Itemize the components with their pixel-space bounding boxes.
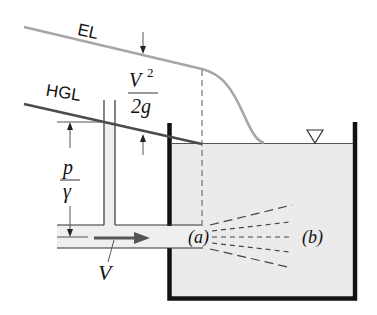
velocity-head-denominator: 2g (131, 95, 151, 118)
pipe-to-tank-diagram: EL HGL V 2 2g p γ V (a) (b) (0, 0, 377, 315)
arrow-down-icon (140, 46, 146, 54)
arrow-up-icon (67, 122, 73, 130)
tank-fluid (172, 144, 352, 296)
point-b-label: (b) (302, 227, 323, 248)
standpipe-fluid (104, 122, 115, 226)
point-a-label: (a) (188, 227, 209, 248)
pressure-head-denominator: γ (63, 180, 72, 203)
free-surface-triangle-icon (307, 130, 323, 143)
pressure-head-numerator: p (61, 156, 73, 179)
velocity-label: V (98, 260, 114, 285)
velocity-head-exponent: 2 (147, 65, 154, 80)
velocity-head-numerator: V (129, 69, 144, 91)
hgl-label: HGL (45, 81, 83, 105)
arrow-up-icon (140, 134, 146, 142)
